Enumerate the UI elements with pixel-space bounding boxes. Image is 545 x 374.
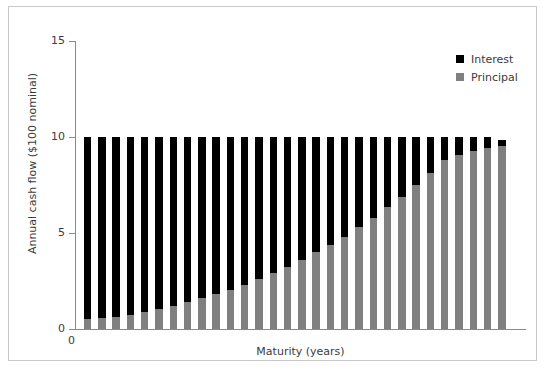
bar-stack <box>327 137 334 329</box>
bar-stack <box>227 137 234 329</box>
legend: InterestPrincipal <box>456 51 518 87</box>
bar-segment-principal <box>155 309 162 329</box>
bar-stack <box>98 137 105 329</box>
bar-segment-interest <box>455 137 462 155</box>
bar-segment-principal <box>170 306 177 329</box>
bar-stack <box>312 137 319 329</box>
bar-segment-interest <box>98 137 105 318</box>
bar-segment-principal <box>384 207 391 329</box>
bar-segment-principal <box>98 318 105 329</box>
bar-segment-principal <box>241 285 248 329</box>
y-axis-tick <box>69 329 75 330</box>
y-axis-tick-label: 0 <box>19 323 65 334</box>
y-axis-tick-label: 15 <box>19 35 65 46</box>
bar-segment-principal <box>84 319 91 329</box>
bar-segment-interest <box>341 137 348 237</box>
bar-segment-interest <box>427 137 434 173</box>
bar-segment-interest <box>412 137 419 185</box>
bar-stack <box>141 137 148 329</box>
bar-segment-interest <box>170 137 177 306</box>
chart-screenshot: 151050 Annual cash flow ($100 nominal) 0… <box>0 0 545 374</box>
bar-segment-principal <box>455 155 462 329</box>
bar-stack <box>298 137 305 329</box>
bar-segment-principal <box>427 173 434 329</box>
bar-segment-principal <box>484 148 491 329</box>
bar-stack <box>84 137 91 329</box>
bar-segment-interest <box>227 137 234 290</box>
y-axis-title: Annual cash flow ($100 nominal) <box>26 49 39 279</box>
bar-stack <box>455 137 462 329</box>
legend-item: Principal <box>456 69 518 85</box>
bar-segment-interest <box>184 137 191 302</box>
bar-stack <box>112 137 119 329</box>
bar-segment-principal <box>355 227 362 329</box>
bar-segment-principal <box>184 302 191 329</box>
bar-segment-principal <box>470 151 477 329</box>
bar-segment-interest <box>270 137 277 273</box>
bar-stack <box>270 137 277 329</box>
bar-stack <box>198 137 205 329</box>
legend-item: Interest <box>456 51 518 67</box>
bar-segment-interest <box>155 137 162 309</box>
bar-stack <box>398 137 405 329</box>
bar-segment-interest <box>127 137 134 315</box>
x-axis-origin-label: 0 <box>68 335 75 346</box>
bar-segment-principal <box>284 267 291 329</box>
bar-stack <box>370 137 377 329</box>
bar-stack <box>355 137 362 329</box>
bar-segment-principal <box>298 260 305 329</box>
bar-segment-interest <box>312 137 319 252</box>
bar-stack <box>170 137 177 329</box>
bar-segment-interest <box>355 137 362 227</box>
legend-item-label: Principal <box>471 72 518 83</box>
bar-segment-principal <box>498 146 505 329</box>
x-axis-line <box>75 329 526 330</box>
legend-item-label: Interest <box>471 54 513 65</box>
bar-stack <box>441 137 448 329</box>
bar-segment-interest <box>484 137 491 148</box>
legend-swatch-icon <box>456 73 464 81</box>
bar-segment-principal <box>112 317 119 329</box>
bar-segment-principal <box>327 245 334 329</box>
bar-segment-interest <box>255 137 262 279</box>
bar-segment-interest <box>141 137 148 312</box>
bar-stack <box>212 137 219 329</box>
bar-segment-principal <box>341 237 348 329</box>
bar-stack <box>284 137 291 329</box>
bar-segment-interest <box>384 137 391 207</box>
bar-stack <box>470 137 477 329</box>
bar-stack <box>498 140 505 329</box>
bar-segment-principal <box>412 185 419 329</box>
bar-segment-interest <box>112 137 119 317</box>
bar-segment-interest <box>212 137 219 294</box>
bar-stack <box>127 137 134 329</box>
bar-segment-principal <box>255 279 262 329</box>
bar-segment-principal <box>312 252 319 329</box>
x-axis-title: Maturity (years) <box>75 345 526 358</box>
bar-segment-interest <box>284 137 291 267</box>
bar-segment-interest <box>398 137 405 197</box>
bar-segment-interest <box>84 137 91 319</box>
bar-segment-principal <box>212 294 219 329</box>
bar-stack <box>484 137 491 329</box>
bar-stack <box>384 137 391 329</box>
bar-segment-interest <box>441 137 448 160</box>
bar-segment-principal <box>270 273 277 329</box>
figure-frame: 151050 Annual cash flow ($100 nominal) 0… <box>8 6 537 361</box>
bar-segment-interest <box>370 137 377 218</box>
bar-segment-principal <box>370 218 377 329</box>
legend-swatch-icon <box>456 55 464 63</box>
bar-segment-principal <box>227 290 234 329</box>
bar-stack <box>241 137 248 329</box>
bar-stack <box>255 137 262 329</box>
bar-stack <box>427 137 434 329</box>
bar-segment-interest <box>298 137 305 260</box>
bar-stack <box>155 137 162 329</box>
bar-segment-principal <box>198 298 205 329</box>
bar-segment-principal <box>127 315 134 329</box>
bar-segment-principal <box>141 312 148 329</box>
bar-segment-interest <box>470 137 477 151</box>
bar-stack <box>412 137 419 329</box>
bar-stack <box>184 137 191 329</box>
bar-segment-interest <box>241 137 248 285</box>
